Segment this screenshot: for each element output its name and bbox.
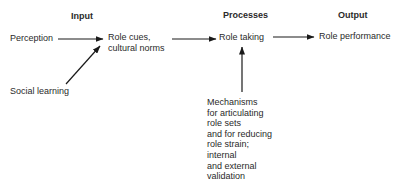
arrow-social-learning-to-role-cues	[66, 46, 100, 84]
node-mechanisms: Mechanisms for articulating role sets an…	[207, 97, 272, 182]
header-output: Output	[338, 10, 368, 21]
node-perception: Perception	[10, 33, 53, 44]
node-social-learning: Social learning	[10, 86, 69, 97]
role-process-diagram: Input Processes Output Perception Social…	[0, 0, 403, 187]
header-processes: Processes	[223, 10, 268, 21]
node-role-performance: Role performance	[319, 31, 391, 42]
node-role-taking: Role taking	[219, 32, 264, 43]
node-role-cues: Role cues, cultural norms	[108, 32, 165, 53]
header-input: Input	[71, 11, 93, 22]
